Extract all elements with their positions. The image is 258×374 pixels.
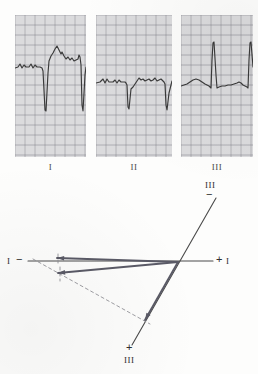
vector-diagram-canvas [0,0,258,374]
label-lead-iii-positive: III [124,355,135,365]
qrs-vector-resultant [58,262,178,273]
label-lead-iii-negative-sign: − [206,189,213,199]
label-lead-i-positive: I [226,256,230,266]
label-lead-iii-positive-sign: + [126,342,133,352]
qrs-vector-lead-iii [145,262,178,320]
ecg-axis-figure: I II III III − I − + I + III [0,0,258,374]
dashed-projection-line [33,259,150,324]
label-lead-i-positive-sign: + [216,254,223,264]
label-lead-i-negative: I [7,256,11,266]
label-lead-i-negative-sign: − [16,254,23,264]
lead-iii-axis-line [132,198,216,345]
